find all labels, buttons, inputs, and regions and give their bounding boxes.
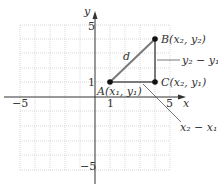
right-triangle <box>110 39 155 82</box>
y-axis-label: y <box>83 5 91 18</box>
point-A-label: A(x₁, y₁) <box>96 85 142 98</box>
horizontal-leg-label: x₂ − x₁ <box>180 121 217 134</box>
point-C-label: C(x₂, y₁) <box>161 76 206 89</box>
x-tick-1: 1 <box>107 97 114 110</box>
x-tick-neg5: −5 <box>12 97 28 110</box>
x-axis-label: x <box>183 97 190 110</box>
y-tick-1: 1 <box>88 76 95 89</box>
y-tick-neg5: −5 <box>80 160 96 173</box>
distance-label: d <box>123 50 130 63</box>
y-axis-arrow-icon <box>93 11 98 19</box>
point-B-label: B(x₂, y₂) <box>160 33 206 46</box>
point-C <box>152 79 158 85</box>
distance-diagram: x y −5 1 5 5 1 −5 A(x₁, y₁) B(x₂, y₂) C(… <box>0 0 218 189</box>
point-B <box>152 36 158 42</box>
vertical-leg-label: y₂ − y₁ <box>181 54 218 67</box>
horizontal-leg-leader <box>143 84 181 122</box>
point-A <box>107 79 113 85</box>
y-tick-5: 5 <box>88 20 95 33</box>
